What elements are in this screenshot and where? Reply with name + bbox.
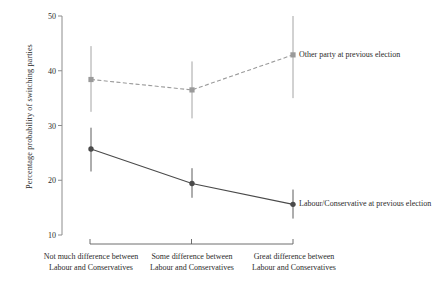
y-axis-ticks [58,16,62,235]
plot-svg [0,0,434,284]
series-annotation-other-party: Other party at previous election [299,50,400,59]
x-label-category-3-line1: Great difference between [224,252,364,263]
series-other-party [88,16,295,118]
x-label-category-3-line2: Labour and Conservatives [224,263,364,274]
chart-root: Percentage probability of switching part… [0,0,434,284]
series-labour-conservative [88,128,295,219]
x-axis-line [90,239,293,244]
x-label-category-3: Great difference between Labour and Cons… [224,252,364,273]
series-annotation-labour-conservative: Labour/Conservative at previous election [299,199,431,208]
